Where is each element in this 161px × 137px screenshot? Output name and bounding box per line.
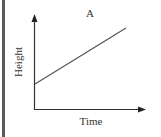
- x-axis-label: Time: [76, 115, 106, 127]
- x-axis-arrow-icon: [138, 107, 146, 113]
- y-axis-arrow-icon: [32, 14, 38, 22]
- chart-title: A: [80, 7, 100, 19]
- series-line-a: [35, 28, 126, 84]
- y-axis-label: Height: [12, 44, 24, 80]
